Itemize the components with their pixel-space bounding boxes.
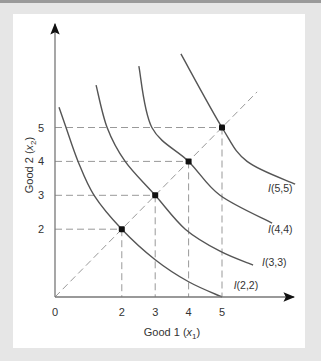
tick-labels: 023452345 xyxy=(38,122,225,319)
bundle-point xyxy=(119,226,125,232)
indifference-curve xyxy=(59,107,222,297)
curve-label: I(2,2) xyxy=(234,279,259,291)
curve-label: I(3,3) xyxy=(262,256,287,268)
y-axis-label: Good 2 (x2) xyxy=(23,137,38,193)
x-tick-label: 5 xyxy=(219,306,225,318)
x-tick-label: 2 xyxy=(119,306,125,318)
curve-label: I(4,4) xyxy=(268,223,293,235)
indifference-curve-chart: 023452345 I(2,2)I(3,3)I(4,4)I(5,5) Good … xyxy=(0,0,321,361)
indifference-curve xyxy=(181,54,295,184)
bundle-point xyxy=(219,125,225,131)
y-tick-label: 2 xyxy=(38,223,44,235)
y-tick-label: 5 xyxy=(38,122,44,134)
bundle-point xyxy=(186,158,192,164)
bundle-point xyxy=(152,192,158,198)
x-tick-label: 4 xyxy=(186,306,192,318)
x-axis-label: Good 1 (x1) xyxy=(144,326,200,341)
x-tick-label: 3 xyxy=(152,306,158,318)
x-tick-label: 0 xyxy=(52,306,58,318)
curve-label: I(5,5) xyxy=(268,182,293,194)
indifference-curves xyxy=(59,54,295,297)
curve-labels: I(2,2)I(3,3)I(4,4)I(5,5) xyxy=(234,182,293,291)
y-tick-label: 3 xyxy=(38,189,44,201)
y-tick-label: 4 xyxy=(38,155,44,167)
axes xyxy=(55,24,294,297)
